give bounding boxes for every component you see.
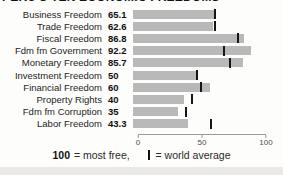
value-label: 62.6 bbox=[102, 21, 133, 32]
value-label: 86.8 bbox=[102, 33, 133, 44]
bar-track bbox=[133, 71, 261, 80]
category-label: Trade Freedom bbox=[0, 21, 102, 32]
chart-row: Trade Freedom 62.6 bbox=[0, 20, 283, 32]
chart-row: Property Rights 40 bbox=[0, 93, 283, 105]
category-label: Investment Freedom bbox=[0, 70, 102, 81]
value-label: 92.2 bbox=[102, 45, 133, 56]
bar bbox=[133, 22, 213, 31]
value-label: 50 bbox=[102, 70, 133, 81]
chart-row: Financial Freedom 60 bbox=[0, 81, 283, 93]
bar-track bbox=[133, 119, 261, 128]
category-label: Labor Freedom bbox=[0, 118, 102, 129]
bar bbox=[133, 119, 188, 128]
category-label: Property Rights bbox=[0, 94, 102, 105]
bar-track bbox=[133, 95, 261, 104]
bar bbox=[133, 10, 216, 19]
bar-track bbox=[133, 107, 261, 116]
category-label: Business Freedom bbox=[0, 9, 102, 20]
chart-row: Monetary Freedom 85.7 bbox=[0, 57, 283, 69]
legend-scale-max: 100 bbox=[52, 149, 70, 161]
axis-tick-label: 50 bbox=[198, 138, 207, 147]
legend-scale-text: = most free, bbox=[74, 149, 130, 161]
bar bbox=[133, 83, 210, 92]
bar bbox=[133, 58, 243, 67]
world-average-marker bbox=[237, 33, 239, 43]
world-average-marker bbox=[223, 46, 225, 56]
world-average-marker bbox=[214, 9, 216, 19]
bar-rows: Business Freedom 65.1 Trade Freedom 62.6… bbox=[0, 8, 283, 130]
value-label: 65.1 bbox=[102, 9, 133, 20]
axis-tick: 50 bbox=[198, 135, 207, 147]
value-label: 40 bbox=[102, 94, 133, 105]
world-average-marker bbox=[196, 70, 198, 80]
bar bbox=[133, 46, 251, 55]
world-average-marker bbox=[229, 58, 231, 68]
chart-row: Investment Freedom 50 bbox=[0, 69, 283, 81]
legend-marker-text: = world average bbox=[156, 149, 231, 161]
world-average-marker bbox=[191, 94, 193, 104]
bar-track bbox=[133, 10, 261, 19]
value-label: 60 bbox=[102, 82, 133, 93]
value-label: 43.3 bbox=[102, 118, 133, 129]
bar-track bbox=[133, 34, 261, 43]
chart-title: PERU'S TEN ECONOMIC FREEDOMS bbox=[2, 0, 283, 5]
value-label: 85.7 bbox=[102, 57, 133, 68]
chart-row: Business Freedom 65.1 bbox=[0, 8, 283, 20]
category-label: Fdm fm Corruption bbox=[0, 106, 102, 117]
bar bbox=[133, 107, 178, 116]
chart-row: Fdm fm Corruption 35 bbox=[0, 106, 283, 118]
axis-tick: 0 bbox=[136, 135, 140, 147]
axis-tick: 100 bbox=[259, 135, 272, 147]
bar bbox=[133, 71, 197, 80]
legend: 100 = most free, = world average bbox=[0, 149, 283, 161]
world-average-marker bbox=[214, 21, 216, 31]
chart-row: Fdm fm Government 92.2 bbox=[0, 45, 283, 57]
bar bbox=[133, 34, 244, 43]
value-label: 35 bbox=[102, 106, 133, 117]
bar-track bbox=[133, 83, 261, 92]
bar bbox=[133, 95, 184, 104]
category-label: Fiscal Freedom bbox=[0, 33, 102, 44]
page-edge bbox=[0, 167, 283, 175]
bar-track bbox=[133, 22, 261, 31]
category-label: Monetary Freedom bbox=[0, 57, 102, 68]
category-label: Fdm fm Government bbox=[0, 45, 102, 56]
category-label: Financial Freedom bbox=[0, 82, 102, 93]
world-average-marker bbox=[210, 119, 212, 129]
axis-tick-label: 0 bbox=[136, 138, 140, 147]
chart-row: Labor Freedom 43.3 bbox=[0, 118, 283, 130]
x-axis: 0 50 100 bbox=[138, 134, 266, 149]
world-average-marker bbox=[185, 107, 187, 117]
chart-row: Fiscal Freedom 86.8 bbox=[0, 32, 283, 44]
chart-title-text: PERU'S TEN ECONOMIC FREEDOMS bbox=[2, 0, 283, 4]
world-average-marker-icon bbox=[148, 150, 150, 160]
bar-track bbox=[133, 46, 261, 55]
world-average-marker bbox=[200, 82, 202, 92]
chart: PERU'S TEN ECONOMIC FREEDOMS Business Fr… bbox=[0, 0, 283, 175]
bar-track bbox=[133, 58, 261, 67]
axis-tick-label: 100 bbox=[259, 138, 272, 147]
